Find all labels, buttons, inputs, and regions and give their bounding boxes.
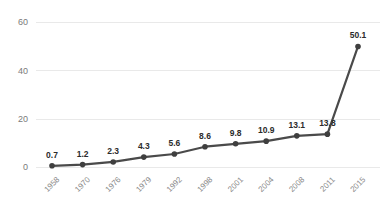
data-point-1979 bbox=[141, 154, 147, 160]
data-point-2015 bbox=[355, 44, 361, 50]
chart-background bbox=[0, 0, 385, 208]
data-point-1970 bbox=[80, 162, 86, 168]
y-tick-label-40: 40 bbox=[18, 66, 28, 76]
data-label-2001: 9.8 bbox=[230, 128, 242, 138]
data-point-1976 bbox=[110, 159, 116, 165]
data-point-2001 bbox=[233, 141, 239, 147]
data-point-1992 bbox=[172, 151, 178, 157]
data-point-1958 bbox=[49, 163, 55, 169]
y-tick-label-20: 20 bbox=[18, 114, 28, 124]
y-tick-label-60: 60 bbox=[18, 17, 28, 27]
data-label-2015: 50.1 bbox=[350, 30, 367, 40]
data-point-2004 bbox=[263, 138, 269, 144]
data-label-1958: 0.7 bbox=[46, 150, 58, 160]
data-point-2011 bbox=[325, 131, 331, 137]
data-point-2008 bbox=[294, 133, 300, 139]
data-label-1976: 2.3 bbox=[107, 146, 119, 156]
y-tick-label-0: 0 bbox=[23, 162, 28, 172]
data-label-2004: 10.9 bbox=[258, 125, 275, 135]
data-point-1998 bbox=[202, 144, 208, 150]
data-label-1970: 1.2 bbox=[77, 149, 89, 159]
chart-container: 0204060 19581970197619791992199820012004… bbox=[0, 0, 385, 208]
data-label-2011: 13.8 bbox=[319, 118, 336, 128]
data-label-1992: 5.6 bbox=[168, 138, 180, 148]
data-label-1998: 8.6 bbox=[199, 131, 211, 141]
line-chart: 0204060 19581970197619791992199820012004… bbox=[0, 0, 385, 208]
data-label-2008: 13.1 bbox=[289, 120, 306, 130]
data-label-1979: 4.3 bbox=[138, 141, 150, 151]
